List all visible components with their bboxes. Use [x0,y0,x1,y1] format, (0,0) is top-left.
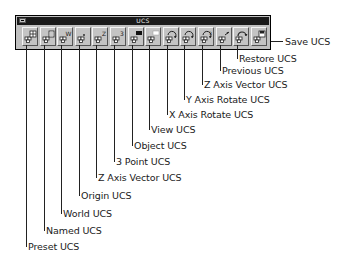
window-title: UCS [17,16,269,25]
leader-line [184,45,185,100]
leader-line [79,45,80,196]
title-bar[interactable]: UCS [17,17,269,25]
leader-line [132,45,133,146]
origin-ucs-label: Origin UCS [81,190,131,201]
leader-line [220,45,221,71]
3-point-ucs-button[interactable]: 3 [110,27,126,46]
y-axis-rotate-ucs-button[interactable] [180,27,196,46]
leader-line [96,45,97,178]
x-axis-rotate-ucs-label: X Axis Rotate UCS [169,109,253,120]
preset-ucs-button[interactable] [22,27,38,46]
save-ucs-button[interactable] [251,27,267,46]
save-ucs-label: Save UCS [285,36,330,47]
previous-ucs-button[interactable] [216,27,232,46]
view-ucs-label: View UCS [151,124,195,135]
svg-text:Z: Z [102,30,106,37]
z-axis-vector-ucs-label: Z Axis Vector UCS [98,172,181,183]
view-ucs-button[interactable] [145,27,161,46]
named-ucs-label: Named UCS [46,225,102,236]
world-ucs-button[interactable]: W [57,27,73,46]
svg-text:3: 3 [120,30,124,37]
y-axis-rotate-ucs-label: Y Axis Rotate UCS [186,94,270,105]
object-ucs-button[interactable] [128,27,144,46]
origin-ucs-button[interactable] [75,27,91,46]
leader-line [271,41,283,42]
preset-ucs-label: Preset UCS [28,241,79,252]
restore-ucs-button[interactable] [233,27,249,46]
svg-text:3: 3 [209,31,212,36]
leader-line [44,45,45,231]
leader-line [114,45,115,162]
z-axis-vector-ucs-button[interactable]: Z [92,27,108,46]
z-axis-rotate-ucs-button[interactable]: 3 [198,27,214,46]
leader-line [61,45,62,214]
button-row: WZ33 [19,27,269,47]
z-axis-rotate-ucs-label: Z Axis Vector UCS [204,79,287,90]
3-point-ucs-label: 3 Point UCS [116,156,170,167]
leader-line [202,45,203,85]
object-ucs-label: Object UCS [134,140,187,151]
ucs-toolbar-diagram: UCS WZ33 Preset UCSNamed UCSWorld UCSOri… [0,0,343,265]
leader-line [149,45,150,130]
x-axis-rotate-ucs-button[interactable] [163,27,179,46]
ucs-toolbar-window: UCS WZ33 [15,15,271,50]
leader-line [167,45,168,115]
restore-ucs-label: Restore UCS [239,53,297,64]
world-ucs-label: World UCS [63,208,112,219]
svg-text:W: W [66,30,72,37]
leader-line [26,45,27,247]
previous-ucs-label: Previous UCS [222,65,284,76]
named-ucs-button[interactable] [40,27,56,46]
leader-line [237,45,238,59]
